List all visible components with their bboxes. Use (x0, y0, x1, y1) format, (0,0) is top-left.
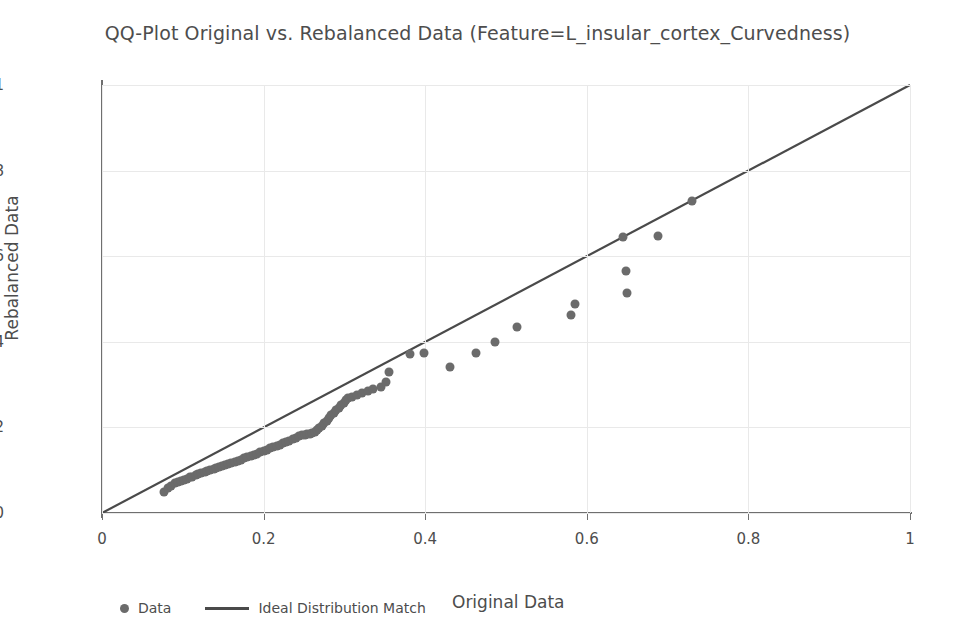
y-tick-label: 0 (0, 504, 4, 522)
x-tick-mark (587, 514, 588, 520)
qq-plot-figure: QQ-Plot Original vs. Rebalanced Data (Fe… (0, 0, 955, 627)
plot-area (102, 85, 910, 513)
x-tick-label: 1 (905, 530, 915, 548)
gridline-vertical (102, 85, 103, 513)
gridline-horizontal (102, 513, 910, 514)
x-tick-label: 0.8 (736, 530, 760, 548)
data-point (687, 196, 696, 205)
x-tick-label: 0.6 (575, 530, 599, 548)
x-tick-mark (264, 514, 265, 520)
data-point (623, 288, 632, 297)
data-point (382, 378, 391, 387)
data-point (472, 348, 481, 357)
x-axis-label: Original Data (452, 592, 565, 612)
chart-title: QQ-Plot Original vs. Rebalanced Data (Fe… (0, 22, 955, 44)
y-axis-label: Rebalanced Data (2, 78, 22, 458)
gridline-vertical (587, 85, 588, 513)
chart-legend: Data Ideal Distribution Match (120, 600, 426, 616)
x-tick-mark (910, 514, 911, 520)
data-point (446, 363, 455, 372)
data-point (419, 349, 428, 358)
x-tick-mark (748, 514, 749, 520)
data-point (653, 231, 662, 240)
data-point (566, 310, 575, 319)
legend-label-ideal: Ideal Distribution Match (258, 600, 425, 616)
legend-label-data: Data (138, 600, 171, 616)
data-point (621, 267, 630, 276)
x-tick-label: 0.2 (252, 530, 276, 548)
gridline-horizontal (102, 256, 910, 257)
data-point (619, 232, 628, 241)
gridline-horizontal (102, 427, 910, 428)
gridline-vertical (910, 85, 911, 513)
data-point (570, 300, 579, 309)
data-point (384, 367, 393, 376)
x-tick-mark (425, 514, 426, 520)
gridline-vertical (425, 85, 426, 513)
x-tick-label: 0.4 (413, 530, 437, 548)
gridline-horizontal (102, 85, 910, 86)
ideal-distribution-match-line (102, 85, 910, 513)
legend-ideal-line-icon (205, 607, 249, 610)
data-point (405, 349, 414, 358)
x-tick-mark (102, 514, 103, 520)
legend-data-marker-icon (120, 604, 129, 613)
data-point (491, 337, 500, 346)
gridline-horizontal (102, 342, 910, 343)
gridline-vertical (748, 85, 749, 513)
x-tick-label: 0 (97, 530, 107, 548)
data-point (512, 322, 521, 331)
gridline-horizontal (102, 171, 910, 172)
